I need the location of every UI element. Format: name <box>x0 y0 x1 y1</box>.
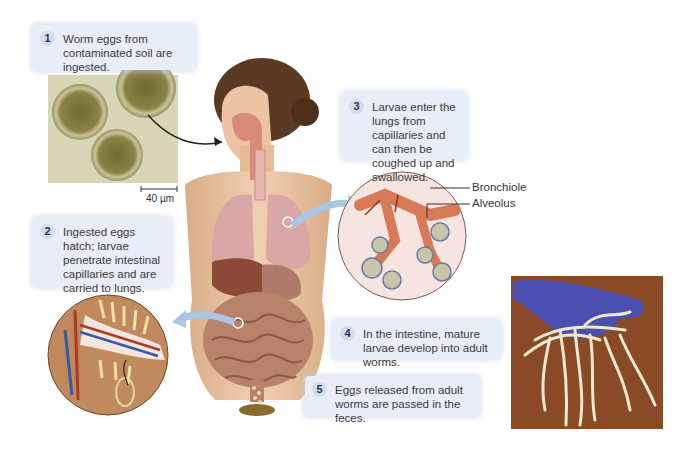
step-4-callout: 4 In the intestine, mature larvae develo… <box>333 320 500 358</box>
scale-bar <box>141 186 177 192</box>
step-1-callout: 1 Worm eggs from contaminated soil are i… <box>33 25 195 70</box>
step-2-text: Ingested eggs hatch; larvae penetrate in… <box>63 226 160 294</box>
step-2-callout: 2 Ingested eggs hatch; larvae penetrate … <box>33 218 171 286</box>
human-body <box>185 58 332 416</box>
alveolus-label: Alveolus <box>472 197 515 209</box>
step-2-number: 2 <box>40 224 55 239</box>
step-1-text: Worm eggs from contaminated soil are ing… <box>63 33 172 73</box>
step-5-callout: 5 Eggs released from adult worms are pas… <box>305 376 479 416</box>
step-3-number: 3 <box>349 99 364 114</box>
lung-inset <box>338 172 470 300</box>
step-4-number: 4 <box>340 326 355 341</box>
worms-photo <box>511 276 663 429</box>
eggs-micrograph <box>48 58 222 183</box>
step-1-number: 1 <box>40 31 55 46</box>
step-5-number: 5 <box>312 382 327 397</box>
step-3-callout: 3 Larvae enter the lungs from capillarie… <box>342 93 466 159</box>
intestine-inset <box>48 295 168 415</box>
scale-bar-label: 40 µm <box>146 193 174 204</box>
bronchiole-label: Bronchiole <box>472 181 526 193</box>
